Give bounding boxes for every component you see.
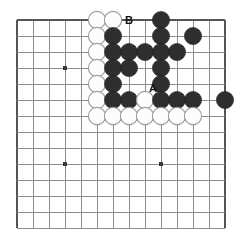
black-stone [216,91,233,108]
black-stone [152,43,169,60]
black-stone [120,43,137,60]
black-stone [104,27,121,44]
white-stone [136,107,153,124]
black-stone [120,59,137,76]
black-stone [104,75,121,92]
black-stone [104,43,121,60]
star-point [159,162,163,166]
go-board-canvas [0,0,240,234]
black-stone [184,27,201,44]
white-stone [88,91,105,108]
white-stone [88,11,105,28]
black-stone [152,27,169,44]
black-stone [120,91,137,108]
black-stone [104,59,121,76]
white-stone [88,75,105,92]
white-stone [184,107,201,124]
white-stone [152,107,169,124]
white-stone [88,43,105,60]
black-stone [168,43,185,60]
black-stone [136,43,153,60]
white-stone [104,11,121,28]
black-stone [104,91,121,108]
black-stone [152,91,169,108]
white-stone [104,107,121,124]
white-stone [168,107,185,124]
black-stone [152,59,169,76]
star-point [63,66,67,70]
white-stone [88,59,105,76]
black-stone [152,11,169,28]
go-board-diagram: BA [0,0,240,234]
move-marker-b: B [125,15,133,26]
white-stone [88,27,105,44]
white-stone [120,107,137,124]
white-stone [136,91,153,108]
black-stone [184,91,201,108]
move-marker-a: A [149,83,157,94]
white-stone [88,107,105,124]
black-stone [168,91,185,108]
star-point [63,162,67,166]
